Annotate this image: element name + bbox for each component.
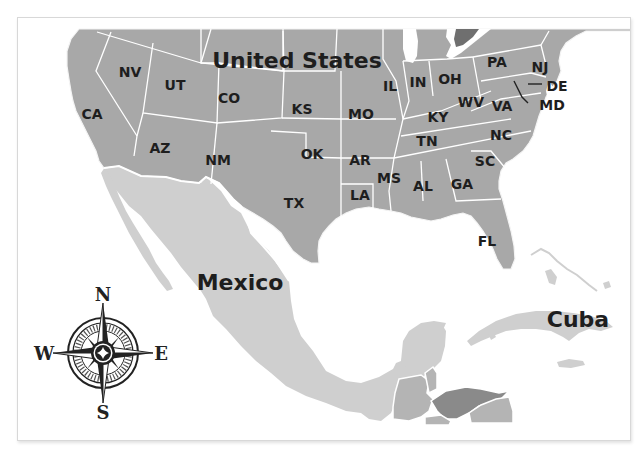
bahamas-island-andros	[545, 269, 557, 285]
state-label-ok: OK	[301, 146, 325, 162]
country-label-cuba: Cuba	[547, 307, 609, 332]
state-label-oh: OH	[438, 71, 462, 87]
state-label-nc: NC	[490, 127, 512, 143]
state-label-ks: KS	[292, 101, 313, 117]
state-label-ar: AR	[349, 152, 371, 168]
state-label-ca: CA	[81, 106, 102, 122]
state-label-la: LA	[350, 187, 370, 203]
compass-west-label: W	[33, 343, 55, 364]
state-label-ms: MS	[377, 170, 401, 186]
compass-north-label: N	[95, 284, 111, 305]
state-label-ky: KY	[428, 109, 450, 125]
compass-south-label: S	[97, 402, 110, 423]
state-label-pa: PA	[487, 54, 507, 70]
state-label-nm: NM	[205, 152, 231, 168]
country-label-united-states: United States	[212, 48, 382, 73]
state-label-az: AZ	[150, 140, 171, 156]
bahamas-chain	[531, 249, 597, 291]
state-label-sc: SC	[475, 153, 495, 169]
state-label-ut: UT	[165, 77, 186, 93]
state-label-al: AL	[413, 178, 433, 194]
yucatan-peninsula	[401, 323, 446, 373]
map-frame: NV UT CA CO KS AZ NM OK TX IL IN OH PA N…	[17, 17, 631, 441]
bahamas-small-island	[603, 281, 611, 289]
state-label-co: CO	[218, 90, 240, 106]
jamaica	[557, 359, 585, 368]
map-canvas: NV UT CA CO KS AZ NM OK TX IL IN OH PA N…	[18, 18, 631, 441]
state-label-tn: TN	[416, 133, 437, 149]
state-label-wv: WV	[458, 94, 484, 110]
state-label-de: DE	[546, 78, 567, 94]
country-label-mexico: Mexico	[197, 270, 284, 295]
state-label-in: IN	[410, 74, 427, 90]
state-label-ga: GA	[451, 176, 473, 192]
state-label-va: VA	[492, 98, 513, 114]
state-label-md: MD	[539, 97, 565, 113]
compass-rose-icon	[53, 303, 153, 403]
state-label-fl: FL	[478, 233, 497, 249]
state-label-nv: NV	[119, 64, 142, 80]
state-label-tx: TX	[284, 195, 305, 211]
state-label-nj: NJ	[532, 59, 549, 75]
state-label-mo: MO	[348, 106, 374, 122]
lake-michigan	[403, 29, 418, 63]
compass-east-label: E	[154, 343, 168, 364]
state-label-il: IL	[383, 78, 397, 94]
